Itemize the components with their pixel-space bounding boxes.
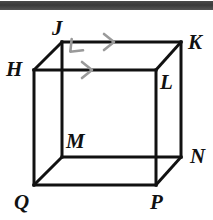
- vertex-label-M: M: [66, 131, 85, 152]
- edge-K-L: [156, 42, 181, 70]
- vertex-label-J: J: [52, 18, 63, 39]
- edge-M-Q: [34, 157, 62, 185]
- vertex-label-H: H: [6, 59, 22, 80]
- cube-diagram: [0, 0, 213, 220]
- edge-J-H: [34, 42, 62, 70]
- geometry-figure-canvas: JKHLMNQP: [0, 0, 213, 220]
- edge-N-P: [156, 157, 181, 185]
- vertex-label-P: P: [150, 192, 163, 213]
- vertex-label-Q: Q: [14, 192, 29, 213]
- vertex-label-N: N: [190, 146, 205, 167]
- cube-edge-group: [34, 42, 181, 185]
- vertex-label-L: L: [160, 72, 173, 93]
- vertex-label-K: K: [188, 32, 202, 53]
